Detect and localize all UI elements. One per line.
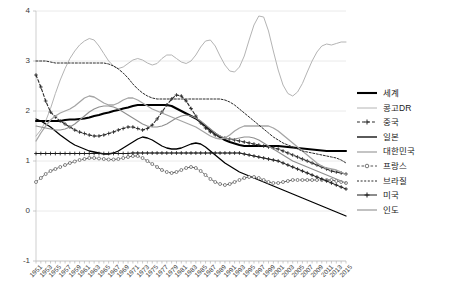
data-point-marker: [141, 157, 144, 160]
y-axis-tick-labels: -101234: [6, 11, 30, 261]
data-point-marker: [214, 181, 217, 184]
data-point-marker: [286, 163, 290, 167]
data-point-marker: [272, 182, 275, 185]
legend-label: 미국: [383, 191, 399, 200]
data-point-marker: [146, 151, 150, 155]
data-point-marker: [281, 161, 285, 165]
data-point-marker: [68, 152, 72, 156]
data-point-marker: [102, 152, 106, 156]
y-tick-label: 1: [8, 157, 30, 165]
data-point-marker: [238, 139, 242, 143]
legend-item[interactable]: 일본: [356, 130, 451, 145]
legend-swatch-icon: [356, 117, 378, 127]
legend-item[interactable]: 중국: [356, 115, 451, 130]
data-point-marker: [310, 161, 314, 165]
data-point-marker: [185, 167, 188, 170]
data-point-marker: [141, 151, 145, 155]
data-point-marker: [53, 152, 57, 156]
legend-label: 일본: [383, 133, 399, 142]
data-point-marker: [238, 151, 242, 155]
legend-item[interactable]: 미국: [356, 188, 451, 203]
data-point-marker: [165, 171, 168, 174]
data-point-marker: [281, 149, 285, 153]
data-point-marker: [160, 169, 163, 172]
data-point-marker: [150, 151, 154, 155]
data-point-marker: [247, 153, 251, 157]
data-point-marker: [190, 166, 193, 169]
data-point-marker: [170, 151, 174, 155]
data-point-marker: [315, 179, 318, 182]
legend-item[interactable]: 프랑스: [356, 159, 451, 174]
legend-item[interactable]: 콩고DR: [356, 101, 451, 116]
data-point-marker: [54, 168, 57, 171]
data-point-marker: [344, 187, 348, 191]
legend-item[interactable]: 인도: [356, 203, 451, 218]
data-point-marker: [73, 152, 77, 156]
legend-swatch-icon: [356, 103, 378, 113]
data-point-marker: [146, 160, 149, 163]
data-point-marker: [160, 151, 164, 155]
legend-item[interactable]: 세계: [356, 86, 451, 101]
data-point-marker: [291, 179, 294, 182]
data-point-marker: [194, 151, 198, 155]
series-line: [36, 156, 346, 185]
data-point-marker: [83, 132, 87, 136]
line-chart: -101234 19511953195519571959196119631965…: [0, 0, 451, 300]
data-point-marker: [262, 156, 266, 160]
data-point-marker: [252, 176, 255, 179]
data-point-marker: [155, 151, 159, 155]
data-point-marker: [131, 155, 134, 158]
data-point-marker: [233, 181, 236, 184]
data-point-marker: [267, 181, 270, 184]
data-point-marker: [233, 151, 237, 155]
data-point-marker: [315, 175, 319, 179]
y-tick-label: 4: [8, 7, 30, 15]
data-point-marker: [194, 167, 197, 170]
data-point-marker: [257, 177, 260, 180]
data-point-marker: [199, 151, 203, 155]
data-point-marker: [73, 128, 77, 132]
data-point-marker: [175, 171, 178, 174]
data-point-marker: [87, 133, 91, 137]
data-point-marker: [175, 93, 179, 97]
data-point-marker: [282, 181, 285, 184]
data-point-marker: [209, 178, 212, 181]
data-point-marker: [34, 73, 38, 77]
data-point-marker: [184, 151, 188, 155]
data-point-marker: [136, 151, 140, 155]
data-point-marker: [223, 151, 227, 155]
data-point-marker: [267, 157, 271, 161]
data-point-marker: [305, 171, 309, 175]
data-point-marker: [156, 166, 159, 169]
series-line: [36, 153, 346, 189]
legend-item[interactable]: 대한민국: [356, 144, 451, 159]
data-point-marker: [291, 165, 295, 169]
data-point-marker: [49, 152, 53, 156]
data-point-marker: [242, 140, 246, 144]
data-point-marker: [136, 127, 140, 131]
data-point-marker: [339, 185, 343, 189]
data-point-marker: [126, 152, 130, 156]
chart-legend: 세계콩고DR중국일본대한민국프랑스브라질미국인도: [356, 86, 451, 217]
data-point-marker: [102, 158, 105, 161]
data-point-marker: [243, 177, 246, 180]
data-point-marker: [248, 176, 251, 179]
legend-item[interactable]: 브라질: [356, 174, 451, 189]
data-point-marker: [277, 182, 280, 185]
data-point-marker: [262, 179, 265, 182]
data-point-marker: [189, 151, 193, 155]
legend-label: 프랑스: [383, 162, 407, 171]
data-point-marker: [204, 151, 208, 155]
data-point-marker: [204, 174, 207, 177]
data-point-marker: [39, 177, 42, 180]
data-point-marker: [223, 184, 226, 187]
data-point-marker: [247, 141, 251, 145]
data-point-marker: [151, 163, 154, 166]
data-point-marker: [257, 155, 261, 159]
data-series-group: [34, 16, 348, 216]
data-point-marker: [305, 159, 309, 163]
legend-swatch-icon: [356, 147, 378, 157]
data-point-marker: [68, 162, 71, 165]
data-point-marker: [44, 173, 47, 176]
data-point-marker: [102, 133, 106, 137]
